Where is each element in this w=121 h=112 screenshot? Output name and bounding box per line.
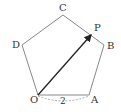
label-c: C (59, 2, 67, 13)
label-o: O (30, 94, 38, 105)
vector-op (38, 35, 91, 95)
pentagon-outline (22, 15, 104, 95)
label-p: P (94, 22, 101, 33)
pentagon-diagram: C P B D O A 2 (0, 0, 121, 112)
label-b: B (107, 40, 114, 51)
label-d: D (12, 39, 20, 50)
side-length-label: 2 (60, 96, 66, 106)
label-a: A (90, 94, 99, 105)
